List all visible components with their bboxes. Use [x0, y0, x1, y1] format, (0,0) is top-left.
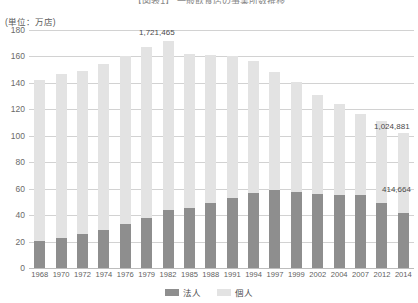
x-tick-1976: 1976 [115, 270, 136, 282]
bar-segment-kojin-1976[interactable] [120, 56, 131, 225]
x-tick-1994: 1994 [243, 270, 264, 282]
y-tick-140: 140 [11, 78, 25, 88]
bar-segment-hojin-1972[interactable] [77, 234, 88, 268]
x-tick-1979: 1979 [136, 270, 157, 282]
bar-segment-kojin-1991[interactable] [227, 56, 238, 198]
bar-segment-kojin-1997[interactable] [269, 72, 280, 190]
bar-column-1979[interactable] [136, 30, 157, 268]
bar-column-1994[interactable] [243, 30, 264, 268]
bar-column-1999[interactable] [286, 30, 307, 268]
bar-column-2012[interactable] [371, 30, 392, 268]
bar-column-1982[interactable] [157, 30, 178, 268]
y-tick-120: 120 [11, 104, 25, 114]
bar-stack [398, 30, 409, 268]
bar-segment-hojin-1976[interactable] [120, 224, 131, 268]
bar-stack [312, 30, 323, 268]
bar-segment-kojin-1988[interactable] [205, 55, 216, 202]
x-tick-1982: 1982 [157, 270, 178, 282]
x-tick-1991: 1991 [222, 270, 243, 282]
bar-segment-kojin-1979[interactable] [141, 47, 152, 218]
bar-column-2007[interactable] [350, 30, 371, 268]
y-tick-100: 100 [11, 131, 25, 141]
bar-stack [291, 30, 302, 268]
bar-column-1988[interactable] [200, 30, 221, 268]
bar-segment-hojin-1999[interactable] [291, 192, 302, 268]
bar-column-2014[interactable] [393, 30, 414, 268]
bar-column-1974[interactable] [93, 30, 114, 268]
bar-segment-kojin-1999[interactable] [291, 82, 302, 192]
bar-segment-kojin-1968[interactable] [34, 80, 45, 241]
x-tick-1999: 1999 [286, 270, 307, 282]
bar-segment-hojin-1997[interactable] [269, 190, 280, 268]
x-tick-2012: 2012 [371, 270, 392, 282]
legend-item-kojin: 個人 [217, 286, 253, 298]
bar-segment-kojin-2004[interactable] [334, 104, 345, 195]
bar-segment-hojin-1979[interactable] [141, 218, 152, 268]
legend-label-kojin: 個人 [235, 286, 253, 298]
bar-segment-hojin-2002[interactable] [312, 194, 323, 268]
y-tick-180: 180 [11, 25, 25, 35]
bar-stack [120, 30, 131, 268]
x-tick-1968: 1968 [29, 270, 50, 282]
bar-segment-hojin-2007[interactable] [355, 195, 366, 268]
bar-column-1970[interactable] [50, 30, 71, 268]
x-tick-2014: 2014 [393, 270, 414, 282]
bar-segment-kojin-2007[interactable] [355, 114, 366, 195]
bar-segment-hojin-2014[interactable] [398, 213, 409, 268]
bar-segment-hojin-1974[interactable] [98, 230, 109, 268]
y-tick-20: 20 [16, 237, 25, 247]
bar-segment-kojin-1970[interactable] [56, 74, 67, 237]
bar-column-1991[interactable] [222, 30, 243, 268]
bar-segment-kojin-2002[interactable] [312, 95, 323, 194]
annotation-peak-total-1982: 1,721,465 [139, 28, 175, 37]
bar-stack [184, 30, 195, 268]
x-tick-2004: 2004 [328, 270, 349, 282]
bar-column-1976[interactable] [115, 30, 136, 268]
bar-segment-hojin-2012[interactable] [376, 203, 387, 268]
bar-column-1972[interactable] [72, 30, 93, 268]
x-tick-1997: 1997 [264, 270, 285, 282]
chart-title: 【図表1】 一般飲食店の事業所数推移 [0, 0, 418, 4]
chart-legend: 法人 個人 [0, 286, 418, 298]
bar-stack [205, 30, 216, 268]
bar-column-1985[interactable] [179, 30, 200, 268]
bar-segment-hojin-1982[interactable] [163, 210, 174, 268]
bar-segment-hojin-2004[interactable] [334, 195, 345, 268]
bar-segment-hojin-1994[interactable] [248, 193, 259, 268]
bar-stack [269, 30, 280, 268]
bar-stack [227, 30, 238, 268]
chart-container: 【図表1】 一般飲食店の事業所数推移 (単位：万店) 1801601401201… [0, 0, 418, 303]
bar-stack [56, 30, 67, 268]
bar-stack [355, 30, 366, 268]
bar-segment-kojin-2014[interactable] [398, 133, 409, 214]
bar-stack [98, 30, 109, 268]
bar-segment-hojin-1988[interactable] [205, 203, 216, 268]
bar-segment-kojin-1974[interactable] [98, 64, 109, 229]
bar-segment-hojin-1970[interactable] [56, 238, 67, 268]
bar-segment-hojin-1991[interactable] [227, 198, 238, 268]
bar-stack [141, 30, 152, 268]
bar-column-1968[interactable] [29, 30, 50, 268]
bar-column-2004[interactable] [328, 30, 349, 268]
bar-segment-kojin-1994[interactable] [248, 61, 259, 193]
bar-column-1997[interactable] [264, 30, 285, 268]
bar-segment-kojin-1985[interactable] [184, 54, 195, 208]
legend-label-hojin: 法人 [183, 286, 201, 298]
bar-stack [77, 30, 88, 268]
bar-column-2002[interactable] [307, 30, 328, 268]
bar-stack [34, 30, 45, 268]
legend-item-hojin: 法人 [165, 286, 201, 298]
bar-stack [376, 30, 387, 268]
bar-stack [334, 30, 345, 268]
x-tick-1972: 1972 [72, 270, 93, 282]
y-tick-40: 40 [16, 210, 25, 220]
bar-segment-kojin-1982[interactable] [163, 41, 174, 211]
x-axis-labels: 1968197019721974197619791982198519881991… [29, 270, 414, 282]
annotation-last-total-2014: 1,024,881 [374, 122, 410, 131]
y-tick-0: 0 [20, 263, 25, 273]
bar-segment-hojin-1985[interactable] [184, 208, 195, 268]
bar-segment-kojin-1972[interactable] [77, 71, 88, 234]
y-tick-160: 160 [11, 51, 25, 61]
bar-segment-hojin-1968[interactable] [34, 241, 45, 268]
legend-swatch-hojin-icon [165, 289, 179, 296]
